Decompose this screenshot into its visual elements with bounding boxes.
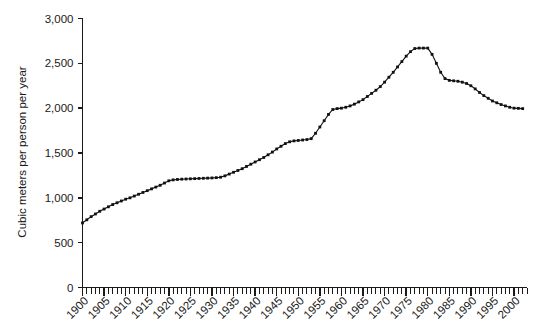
series-data-point (370, 92, 373, 95)
series-data-point (129, 196, 132, 199)
series-data-point (349, 105, 352, 108)
series-line-path (83, 48, 523, 223)
series-data-point (288, 140, 291, 143)
series-data-point (457, 80, 460, 83)
series-data-point (344, 106, 347, 109)
y-axis-tick-label: 3,000 (45, 13, 74, 25)
series-data-point (375, 89, 378, 92)
series-data-point (275, 148, 278, 151)
series-data-point (452, 79, 455, 82)
series-data-point (448, 79, 451, 82)
series-data-point (495, 101, 498, 104)
series-data-point (219, 176, 222, 179)
series-data-point (98, 210, 101, 213)
series-data-point (336, 107, 339, 110)
series-data-point (310, 137, 313, 140)
series-data-point (262, 156, 265, 159)
water-availability-line-chart: Cubic meters per person per year 05001,0… (0, 0, 543, 334)
y-axis-tick-label: 2,000 (45, 102, 74, 114)
x-axis-tick-label: 1900 (64, 294, 91, 321)
x-axis-tick-label: 1995 (474, 294, 501, 321)
y-axis-tick-label: 1,000 (45, 192, 74, 204)
x-axis: 1900190519101915192019251930193519401945… (64, 288, 527, 322)
series-data-point (323, 119, 326, 122)
x-axis-tick-label: 1940 (236, 294, 263, 321)
y-axis-title-text: Cubic meters per person per year (16, 66, 28, 237)
series-data-point (508, 106, 511, 109)
series-data-point (236, 169, 239, 172)
series-data-point (439, 71, 442, 74)
series-data-point (521, 107, 524, 110)
series-data-point (215, 176, 218, 179)
x-axis-tick-label: 1960 (323, 294, 350, 321)
series-data-point (487, 97, 490, 100)
series-data-point (189, 177, 192, 180)
series-data-point (331, 108, 334, 111)
y-axis-tick-label: 0 (67, 282, 73, 294)
series-data-point (90, 215, 93, 218)
series-data-point (154, 186, 157, 189)
x-axis-tick-label: 1905 (85, 294, 112, 321)
series-data-point (366, 95, 369, 98)
series-data-point (211, 177, 214, 180)
x-axis-tick-label: 1965 (344, 294, 371, 321)
series-data-point (474, 87, 477, 90)
series-data-point (94, 213, 97, 216)
series-data-point (249, 163, 252, 166)
series-data-point (400, 60, 403, 63)
series-data-point (228, 173, 231, 176)
series-data-point (150, 187, 153, 190)
series-data-point (267, 153, 270, 156)
series-data-point (81, 222, 84, 225)
x-axis-tick-label: 1985 (431, 294, 458, 321)
series-data-point (271, 151, 274, 154)
x-axis-tick-label: 1915 (129, 294, 156, 321)
series-data-point (185, 178, 188, 181)
series-data-point (413, 47, 416, 50)
series-data-point (297, 139, 300, 142)
y-axis-tick-label: 1,500 (45, 147, 74, 159)
series-data-point (85, 218, 88, 221)
y-axis-title: Cubic meters per person per year (16, 66, 28, 237)
x-axis-tick-label: 1935 (215, 294, 242, 321)
x-axis-tick-label: 1950 (280, 294, 307, 321)
series-data-point (159, 184, 162, 187)
y-axis: 05001,0001,5002,0002,5003,000 (45, 13, 83, 294)
series-data-point (444, 77, 447, 80)
series-data-point (513, 107, 516, 110)
series-data-point (409, 50, 412, 53)
series-data-point (241, 167, 244, 170)
series-data-point (172, 179, 175, 182)
series-data-point (491, 100, 494, 103)
series-data-point (306, 138, 309, 141)
series-data-point (142, 191, 145, 194)
series-data-point (327, 113, 330, 116)
series-data-point (245, 165, 248, 168)
series-data-point (388, 76, 391, 79)
series-data-point (133, 195, 136, 198)
series-data-point (461, 81, 464, 84)
series-data-point (314, 132, 317, 135)
series-data-point (422, 47, 425, 50)
series-data-point (478, 91, 481, 94)
x-axis-tick-label: 1955 (301, 294, 328, 321)
series-data-point (232, 171, 235, 174)
x-axis-tick-label: 1930 (193, 294, 220, 321)
series-data-point (202, 177, 205, 180)
series-data-point (111, 203, 114, 206)
chart-canvas: Cubic meters per person per year 05001,0… (0, 0, 543, 334)
series-data-point (470, 84, 473, 87)
x-axis-tick-label: 1980 (409, 294, 436, 321)
data-series (81, 47, 524, 225)
series-data-point (392, 71, 395, 74)
y-axis-tick-label: 2,500 (45, 57, 74, 69)
series-data-point (120, 200, 123, 203)
series-data-point (280, 145, 283, 148)
series-data-point (293, 139, 296, 142)
series-data-point (500, 103, 503, 106)
series-data-point (362, 98, 365, 101)
series-data-point (353, 103, 356, 106)
x-axis-tick-label: 1975 (387, 294, 414, 321)
series-data-point (107, 205, 110, 208)
series-data-point (167, 179, 170, 182)
